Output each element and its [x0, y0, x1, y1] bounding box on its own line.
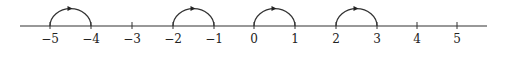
tick-label: 5: [453, 32, 461, 46]
jump-arc: [50, 6, 91, 26]
jump-arc: [254, 6, 295, 26]
arrowhead-icon: [272, 6, 277, 11]
tick-label: −2: [164, 32, 182, 46]
jump-arc: [173, 6, 214, 26]
tick-label: −5: [41, 32, 59, 46]
number-line-diagram: −5−4−3−2−1012345: [0, 0, 507, 76]
tick-label: −3: [123, 32, 141, 46]
tick-label: 2: [332, 32, 340, 46]
tick-label: 0: [250, 32, 258, 46]
jump-arcs: [50, 6, 377, 26]
tick-label: −4: [82, 32, 100, 46]
tick-labels: −5−4−3−2−1012345: [41, 32, 461, 46]
tick-label: 3: [373, 32, 381, 46]
jump-arc: [336, 6, 377, 26]
tick-label: 4: [413, 32, 421, 46]
arrowhead-icon: [68, 6, 73, 11]
tick-label: −1: [205, 32, 223, 46]
arrowhead-icon: [191, 6, 196, 11]
arrowhead-icon: [354, 6, 359, 11]
tick-label: 1: [291, 32, 299, 46]
